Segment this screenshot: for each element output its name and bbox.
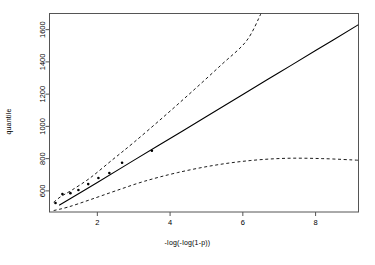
y-tick-label: 1400 xyxy=(38,54,47,71)
x-tick-label: 6 xyxy=(241,218,245,227)
data-point xyxy=(77,189,80,192)
x-axis-label: -log(-log(1-p)) xyxy=(0,239,375,246)
quantile-plot-svg: 24686008001000120014001600 xyxy=(0,0,375,265)
x-tick-label: 4 xyxy=(168,218,172,227)
data-point xyxy=(97,177,100,180)
fit-line xyxy=(59,25,358,206)
confidence-band-line xyxy=(54,14,261,203)
y-tick-label: 800 xyxy=(38,152,47,165)
chart-page: 24686008001000120014001600 -log(-log(1-p… xyxy=(0,0,375,265)
x-tick-label: 8 xyxy=(313,218,317,227)
tick-labels: 24686008001000120014001600 xyxy=(38,21,318,227)
y-axis-label: quantile xyxy=(5,92,12,152)
y-tick-label: 600 xyxy=(38,185,47,198)
x-tick-label: 2 xyxy=(95,218,99,227)
data-point xyxy=(87,183,90,186)
y-tick-label: 1000 xyxy=(38,118,47,135)
y-tick-label: 1600 xyxy=(38,21,47,38)
plot-frame xyxy=(50,14,359,213)
data-series-layer xyxy=(54,14,359,211)
tick-marks xyxy=(46,30,316,216)
data-point xyxy=(121,162,124,165)
data-point xyxy=(69,192,72,195)
data-point xyxy=(54,202,57,205)
y-tick-label: 1200 xyxy=(38,86,47,103)
data-point xyxy=(108,172,111,175)
confidence-band-line xyxy=(54,158,359,210)
